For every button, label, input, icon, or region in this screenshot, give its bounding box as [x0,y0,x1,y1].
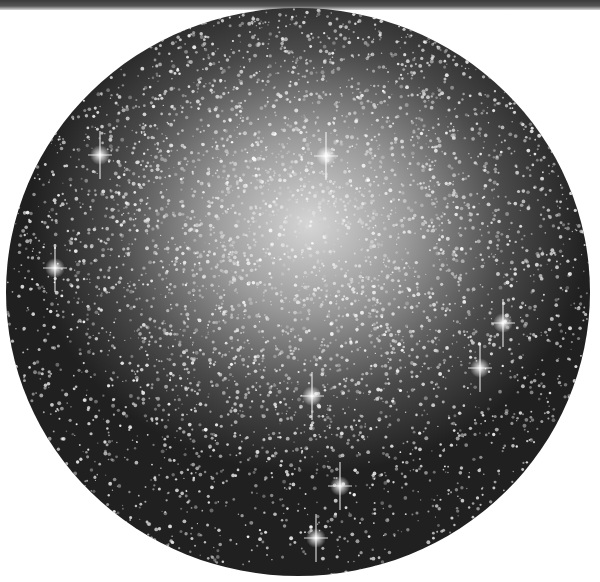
star-field [6,8,590,576]
star-cluster-field [6,8,590,576]
